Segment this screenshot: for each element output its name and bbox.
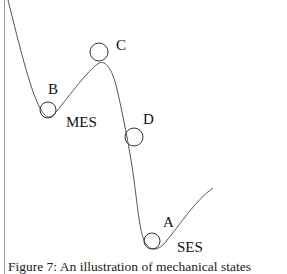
label-c: C	[116, 38, 126, 53]
label-b: B	[48, 82, 58, 97]
ball-a	[144, 233, 160, 249]
figure-caption: Figure 7: An illustration of mechanical …	[8, 259, 251, 274]
energy-landscape-diagram	[0, 0, 287, 274]
label-ses: SES	[177, 240, 203, 255]
ball-c	[90, 43, 108, 61]
energy-curve	[8, 0, 213, 249]
ball-b	[40, 102, 56, 118]
label-d: D	[143, 112, 154, 127]
label-mes: MES	[66, 115, 97, 130]
label-a: A	[163, 215, 174, 230]
ball-d	[125, 128, 143, 146]
